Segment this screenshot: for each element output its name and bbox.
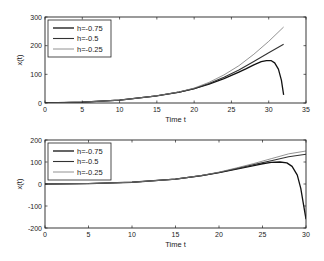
x-axis-label: Time t [165, 115, 186, 124]
legend-label: h=-0.5 [77, 34, 98, 43]
y-axis-label: x(t) [15, 54, 24, 65]
y-tick-label: 0 [38, 100, 42, 107]
legend-label: h=-0.25 [77, 168, 103, 177]
legend-label: h=-0.25 [77, 45, 103, 54]
subplot-1: 051015202530350100200300Time tx(t)h=-0.7… [15, 14, 310, 125]
x-tick-label: 0 [43, 231, 47, 238]
figure: 051015202530350100200300Time tx(t)h=-0.7… [0, 0, 324, 261]
x-tick-label: 15 [172, 231, 180, 238]
legend: h=-0.75h=-0.5h=-0.25 [48, 20, 111, 57]
series-line-1 [45, 61, 284, 103]
legend: h=-0.75h=-0.5h=-0.25 [48, 143, 111, 180]
y-axis-label: x(t) [15, 178, 24, 189]
y-tick-label: -100 [28, 203, 42, 210]
y-tick-label: 300 [30, 14, 42, 21]
x-tick-label: 30 [265, 106, 273, 113]
x-axis-label: Time t [165, 240, 186, 249]
y-tick-label: 0 [38, 181, 42, 188]
legend-label: h=-0.75 [77, 147, 103, 156]
y-tick-label: 200 [30, 42, 42, 49]
x-tick-label: 35 [302, 106, 310, 113]
x-tick-label: 5 [80, 106, 84, 113]
y-tick-label: 100 [30, 159, 42, 166]
y-tick-label: 100 [30, 71, 42, 78]
x-tick-label: 20 [215, 231, 223, 238]
x-tick-label: 25 [259, 231, 267, 238]
x-tick-label: 15 [153, 106, 161, 113]
x-tick-label: 10 [116, 106, 124, 113]
legend-label: h=-0.75 [77, 24, 103, 33]
subplot-2: 051015202530-200-1000100200Time tx(t)h=-… [15, 137, 310, 250]
legend-label: h=-0.5 [77, 157, 98, 166]
x-tick-label: 5 [87, 231, 91, 238]
x-tick-label: 10 [128, 231, 136, 238]
x-tick-label: 0 [43, 106, 47, 113]
y-tick-label: 200 [30, 137, 42, 144]
x-tick-label: 20 [190, 106, 198, 113]
x-tick-label: 25 [228, 106, 236, 113]
x-tick-label: 30 [302, 231, 310, 238]
y-tick-label: -200 [28, 225, 42, 232]
